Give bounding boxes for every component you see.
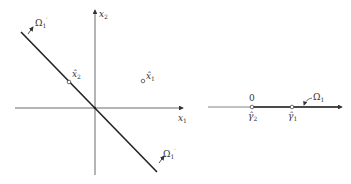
origin-label: 0 bbox=[249, 94, 255, 103]
decision-boundary-line bbox=[21, 32, 157, 172]
point-x-hat-2 bbox=[67, 80, 71, 84]
x-hat-2-label: x̂2 bbox=[72, 70, 81, 80]
origin-dot bbox=[94, 107, 96, 109]
omega-arrow-top bbox=[28, 27, 33, 34]
point-gamma-hat-1 bbox=[290, 105, 294, 109]
point-gamma-hat-2 bbox=[250, 105, 254, 109]
omega-1-label: Ω1 bbox=[313, 93, 324, 103]
omega-1-prime-top-label: Ω1′ bbox=[35, 17, 48, 29]
omega-1-leader bbox=[304, 98, 312, 105]
x1-axis-label: x1 bbox=[178, 114, 187, 124]
point-x-hat-1 bbox=[141, 79, 145, 83]
x2-axis-label: x2 bbox=[99, 10, 108, 20]
gamma-hat-1-label: γ̂1 bbox=[288, 112, 297, 122]
omega-1-prime-bottom-label: Ω1′ bbox=[163, 148, 176, 160]
x-hat-1-label: x̂1 bbox=[146, 72, 155, 82]
gamma-hat-2-label: γ̂2 bbox=[248, 112, 257, 122]
